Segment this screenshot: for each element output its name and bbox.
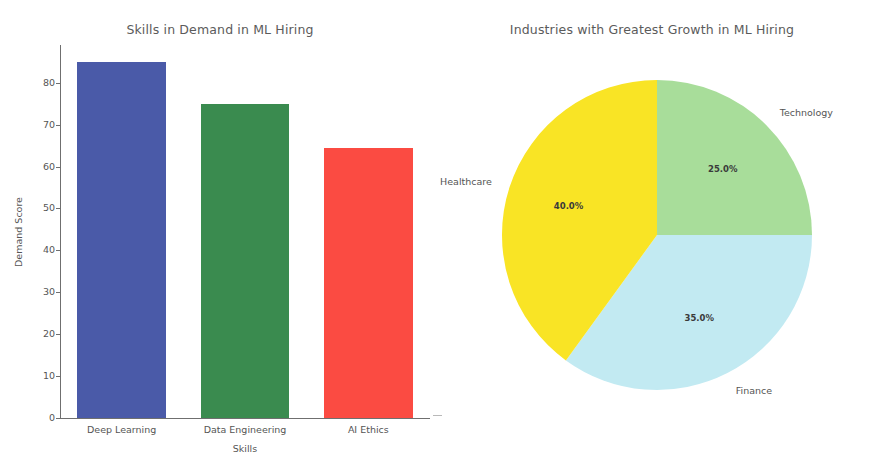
pie-slice-label: Technology — [780, 107, 833, 118]
pie-plot-area: TechnologyFinanceHealthcare 25.0%35.0%40… — [432, 0, 872, 464]
y-tick-label: 40 — [43, 243, 55, 256]
x-tick-label: AI Ethics — [307, 424, 430, 435]
matplotlib-figure: Skills in Demand in ML Hiring 8070605040… — [0, 0, 872, 464]
y-tick-label: 50 — [43, 201, 55, 214]
x-tick-label: Data Engineering — [183, 424, 306, 435]
x-axis-line — [60, 418, 430, 419]
y-tick-mark — [56, 418, 60, 419]
y-tick-label: 10 — [43, 369, 55, 382]
pie-slice-label: Healthcare — [440, 176, 492, 187]
y-axis-line — [60, 45, 61, 418]
y-tick-label: 70 — [43, 118, 55, 131]
y-tick-mark — [56, 208, 60, 209]
bar — [324, 148, 413, 418]
y-tick-label: 60 — [43, 160, 55, 173]
bar — [201, 104, 290, 418]
pie-chart-panel: Industries with Greatest Growth in ML Hi… — [432, 0, 872, 464]
stray-artifact-mark — [433, 415, 442, 416]
y-tick-mark — [56, 167, 60, 168]
y-tick-label: 30 — [43, 285, 55, 298]
pie-percentage-label: 25.0% — [708, 164, 738, 174]
bar-chart-title: Skills in Demand in ML Hiring — [0, 22, 440, 37]
y-tick-mark — [56, 83, 60, 84]
y-tick-mark — [56, 376, 60, 377]
y-tick-label: 0 — [49, 411, 55, 424]
pie-slice-label: Finance — [736, 384, 772, 395]
y-tick-mark — [56, 334, 60, 335]
y-axis-label: Demand Score — [13, 197, 24, 267]
pie-percentage-label: 40.0% — [554, 201, 584, 211]
y-tick-mark — [56, 125, 60, 126]
pie-svg — [432, 0, 872, 464]
y-tick-label: 20 — [43, 327, 55, 340]
y-tick-mark — [56, 292, 60, 293]
y-tick-mark — [56, 250, 60, 251]
x-axis-label: Skills — [60, 443, 430, 454]
pie-slice — [657, 80, 812, 235]
x-tick-label: Deep Learning — [60, 424, 183, 435]
bar-plot-area: 80706050403020100 Demand Score Skills De… — [60, 45, 430, 418]
pie-percentage-label: 35.0% — [684, 313, 714, 323]
bar-chart-panel: Skills in Demand in ML Hiring 8070605040… — [0, 0, 440, 464]
y-tick-label: 80 — [43, 76, 55, 89]
bar — [77, 62, 166, 418]
